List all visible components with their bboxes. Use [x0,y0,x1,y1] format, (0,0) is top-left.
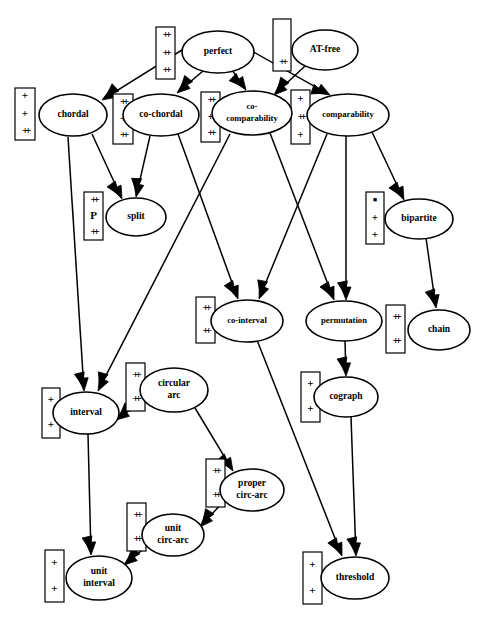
anno-permutation-right: ++++ [386,305,405,353]
edge-perfect-to-co-comparability [228,70,246,90]
edge-permutation-to-cograph [337,341,351,376]
node-chordal[interactable]: chordal [39,94,107,136]
edge-comparability-to-bipartite [372,132,404,200]
anno-bipartite-left-symbol-0: ▪ [373,192,378,207]
graph-canvas: ++++++++++++++++++++++++++++++P++▪++++++… [0,0,489,628]
anno-split-left: ++P++ [84,192,103,240]
anno-perfect-left: ++++++ [156,27,175,79]
edge-co-chordal-to-split [132,136,150,197]
edge-co-comparability-to-permutation [270,133,334,300]
edge-interval-to-unit-interval [82,434,96,555]
node-unit-interval[interactable]: unitinterval [66,556,132,600]
anno-bipartite-left: ▪++ [366,192,384,244]
edge-co-comparability-to-interval [97,134,230,391]
anno-bipartite-left-symbol-1: + [372,211,378,223]
anno-threshold-left-symbol-0: + [309,558,315,570]
anno-unitcircarc-left: ++++ [127,503,146,551]
anno-threshold-left: ++ [303,552,322,604]
anno-cocomp-right-symbol-0: + [297,92,303,104]
node-co-interval[interactable]: co-interval [211,300,283,342]
anno-chordal-left-symbol-1: + [22,107,28,119]
edge-co-interval-to-threshold [257,340,342,556]
node-perfect[interactable]: perfect [182,31,254,73]
anno-interval-left-symbol-0: + [48,393,54,405]
anno-unitinterval-left-symbol-0: + [51,556,57,568]
edge-perfect-to-chordal [102,45,190,100]
anno-split-left-symbol-1: P [90,209,97,221]
anno-atfree-left: ++ [273,19,291,71]
edge-perfect-to-co-chordal [177,71,203,93]
anno-unitinterval-left-symbol-1: + [51,582,57,594]
anno-chordal-left: ++++ [15,88,35,140]
anno-cocomp-right-symbol-2: + [297,128,303,140]
anno-cograph-left-symbol-0: + [307,377,313,389]
node-interval[interactable]: interval [53,392,119,434]
node-permutation[interactable]: permutation [306,301,382,341]
edge-chordal-to-interval [68,137,88,391]
node-unit-circ-arc[interactable]: unitcirc-arc [142,514,204,556]
node-bipartite[interactable]: bipartite [385,199,453,239]
node-at-free[interactable]: AT-free [292,30,358,70]
node-chain[interactable]: chain [408,310,470,350]
node-proper-circ-arc[interactable]: propercirc-arc [220,469,284,511]
edge-bipartite-to-chain [425,238,439,308]
anno-threshold-left-symbol-1: + [309,584,315,596]
anno-cograph-left-symbol-1: + [307,402,313,414]
edge-cograph-to-threshold [347,417,361,556]
node-cograph[interactable]: cograph [314,377,378,417]
edge-comparability-to-permutation [338,136,351,300]
anno-chordal-left-symbol-0: + [22,89,28,101]
anno-interval-left-symbol-1: + [48,418,54,430]
node-split[interactable]: split [106,198,166,236]
node-co-chordal[interactable]: co-chordal [123,94,199,136]
node-circular-arc[interactable]: circulararc [140,368,208,412]
node-threshold[interactable]: threshold [321,557,389,599]
anno-unitinterval-left: ++ [45,550,64,602]
node-comparability[interactable]: comparability [307,94,389,136]
edge-comparability-to-co-interval [257,134,327,299]
node-co-comparability[interactable]: co-comparability [212,91,292,135]
anno-bipartite-left-symbol-2: + [372,228,378,240]
graph-diagram-root: ++++++++++++++++++++++++++++++P++▪++++++… [0,0,489,628]
